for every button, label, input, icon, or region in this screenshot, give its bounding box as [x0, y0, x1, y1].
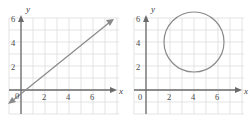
x-tick-2-right: 2 [167, 92, 171, 102]
x-axis-label-right: x [243, 86, 248, 96]
y-axis-label-left: y [25, 4, 30, 14]
x-axis-label-left: x [118, 86, 123, 96]
x-tick-6-left: 6 [90, 92, 94, 102]
panel-line-graph: 0 2 4 6 2 4 6 y x [0, 0, 125, 125]
origin-label-right: 0 [138, 92, 142, 102]
y-axis-label-right: y [150, 4, 155, 14]
y-tick-2-right: 2 [136, 62, 140, 72]
y-tick-6-left: 6 [11, 14, 15, 24]
x-tick-2-left: 2 [42, 92, 46, 102]
grid-left [9, 18, 119, 114]
origin-label-left: 0 [15, 91, 19, 101]
y-tick-2-left: 2 [11, 62, 15, 72]
y-tick-4-right: 4 [136, 38, 141, 48]
x-tick-4-right: 4 [191, 92, 196, 102]
x-tick-6-right: 6 [215, 92, 219, 102]
y-tick-4-left: 4 [11, 38, 16, 48]
grid-right [134, 18, 244, 114]
panel-circle-graph: 0 2 4 6 2 4 6 y x [125, 0, 250, 125]
line-curve-left [8, 19, 114, 104]
x-tick-4-left: 4 [66, 92, 71, 102]
x-axis-right [134, 87, 242, 93]
two-panel-graph-figure: 0 2 4 6 2 4 6 y x [0, 0, 250, 125]
y-tick-6-right: 6 [136, 14, 140, 24]
